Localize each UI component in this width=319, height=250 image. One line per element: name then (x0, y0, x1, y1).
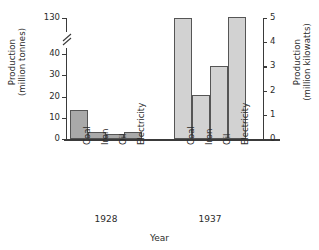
y-axis-right-title: Production(million kilowatts) (292, 14, 312, 110)
group-label: 1928 (86, 214, 126, 224)
tick-mark (62, 97, 66, 98)
tick-label: 2 (270, 86, 275, 95)
tick-mark (263, 139, 267, 140)
y-axis-left-line (66, 18, 67, 140)
tick-label: 130 (44, 13, 60, 22)
tick-label: 4 (270, 37, 275, 46)
category-label: Iron (101, 129, 110, 145)
tick-label: 20 (49, 92, 60, 101)
tick-mark (263, 42, 267, 43)
category-label: Oil (223, 134, 232, 145)
y-axis-left-title-line2: (million tonnes) (17, 28, 27, 96)
tick-mark (62, 139, 66, 140)
tick-mark (62, 18, 66, 19)
category-label: Oil (119, 134, 128, 145)
y-axis-left-title: Production(million tonnes) (7, 14, 27, 110)
tick-label: 1 (270, 110, 275, 119)
category-label: Coal (83, 126, 92, 145)
y-axis-left-title-line1: Production (7, 39, 17, 85)
tick-label: 0 (55, 134, 60, 143)
tick-label: 10 (49, 113, 60, 122)
category-label: Electricity (241, 103, 250, 145)
tick-mark (62, 118, 66, 119)
tick-mark (263, 91, 267, 92)
tick-label: 3 (270, 61, 275, 70)
y-axis-right-line (263, 18, 264, 140)
category-label: Iron (205, 129, 214, 145)
group-label: 1937 (190, 214, 230, 224)
tick-label: 5 (270, 13, 275, 22)
y-axis-right-title-line1: Production (292, 39, 302, 85)
tick-mark (263, 66, 267, 67)
tick-mark (263, 18, 267, 19)
tick-label: 30 (49, 70, 60, 79)
axis-break-icon (62, 32, 73, 48)
plot-area: 130403020100 543210 (66, 18, 264, 140)
category-label: Coal (187, 126, 196, 145)
bar (174, 18, 192, 139)
y-axis-right-title-line2: (million kilowatts) (302, 23, 312, 101)
category-label: Electricity (137, 103, 146, 145)
tick-label: 0 (270, 134, 275, 143)
tick-label: 40 (49, 49, 60, 58)
tick-mark (263, 115, 267, 116)
x-axis-title: Year (0, 233, 319, 243)
tick-mark (62, 75, 66, 76)
tick-mark (62, 54, 66, 55)
bar-chart: Production(million tonnes) Production(mi… (0, 0, 319, 250)
